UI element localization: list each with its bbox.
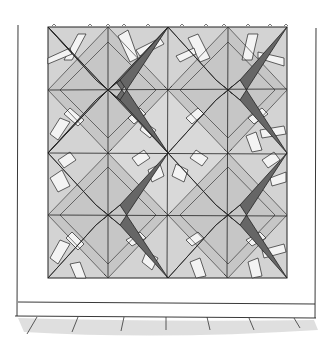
quilt <box>48 24 288 278</box>
floor <box>18 317 318 336</box>
quilt-illustration <box>0 0 325 348</box>
